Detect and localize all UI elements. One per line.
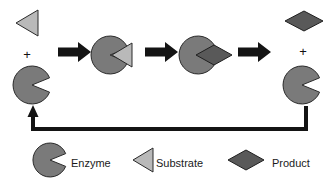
plus-sign-right: +	[299, 44, 307, 59]
substrate-shape-free	[16, 10, 38, 36]
legend-substrate-icon	[133, 148, 153, 172]
plus-sign-left: +	[23, 47, 31, 62]
legend-enzyme-icon	[33, 143, 66, 177]
legend-product-icon	[228, 150, 264, 170]
reaction-arrow-2	[145, 42, 178, 62]
legend-item-substrate: Substrate	[133, 148, 203, 172]
legend-enzyme-label: Enzyme	[71, 157, 111, 169]
reaction-arrow-1	[58, 42, 91, 62]
legend-product-label: Product	[272, 157, 310, 169]
step-2-enzyme-substrate-complex	[91, 36, 132, 74]
step-4-products: +	[283, 11, 323, 104]
enzyme-recycle-arrow	[28, 105, 307, 129]
legend-item-product: Product	[228, 150, 310, 170]
enzyme-reaction-diagram: +	[0, 0, 334, 189]
legend-substrate-label: Substrate	[156, 157, 203, 169]
step-1-reactants: +	[13, 10, 50, 104]
step-3-enzyme-product-complex	[179, 36, 232, 74]
reaction-arrow-3	[238, 42, 271, 62]
legend: Enzyme Substrate Product	[33, 143, 310, 177]
enzyme-shape-free-right	[283, 66, 320, 104]
legend-item-enzyme: Enzyme	[33, 143, 111, 177]
enzyme-shape-free-left	[13, 66, 50, 104]
product-shape-free	[285, 11, 323, 31]
